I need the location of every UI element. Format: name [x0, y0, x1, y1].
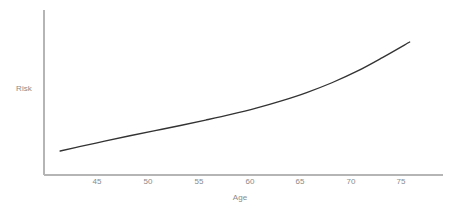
- y-axis-title: Risk: [16, 85, 32, 93]
- x-tick-label-75: 75: [396, 178, 405, 186]
- x-tick-label-70: 70: [346, 178, 355, 186]
- risk-curve-line: [60, 42, 410, 151]
- x-tick-label-60: 60: [245, 178, 254, 186]
- x-tick-label-50: 50: [143, 178, 152, 186]
- x-tick-label-55: 55: [194, 178, 203, 186]
- plot-area: [0, 0, 456, 212]
- chart-figure: 45 50 55 60 65 70 75 Age Risk: [0, 0, 456, 212]
- x-tick-label-45: 45: [92, 178, 101, 186]
- x-axis-title: Age: [233, 194, 248, 202]
- x-tick-label-65: 65: [295, 178, 304, 186]
